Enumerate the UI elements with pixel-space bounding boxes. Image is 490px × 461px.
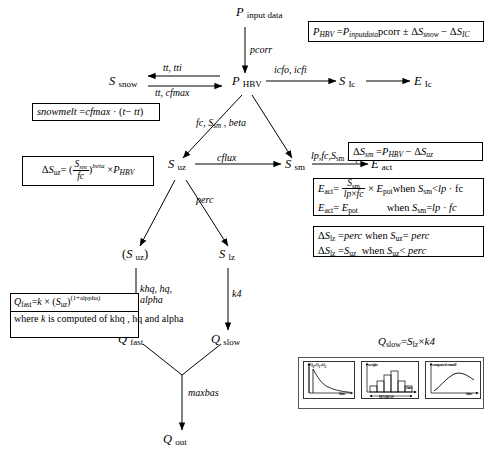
equation-note-q-fast: where k is computed of khq , hq and alph… (11, 312, 138, 326)
mini-chart-weight: weight time MAXBAS (361, 361, 419, 399)
node-e-ic: E Ic (414, 74, 432, 89)
mini-chart-weight-maxbas-label: MAXBAS (379, 395, 394, 399)
mini-chart-runoff: computed runoff time (425, 361, 481, 399)
node-s-uz-lower: (S uz) (122, 247, 148, 262)
mini-chart-runoff-xlabel: time (466, 392, 472, 396)
edge-label-cflux: cflux (217, 152, 236, 163)
node-s-sm: S sm (285, 157, 305, 172)
edge-label-pcorr: pcorr (250, 44, 272, 55)
edge-label-tt-cfmax: tt, cfmax (155, 87, 189, 98)
node-s-ic: S Ic (339, 74, 355, 89)
node-p-hbv: P HBV (232, 74, 262, 89)
edge-label-icfo-icfi: icfo, icfi (274, 64, 307, 75)
mini-chart-runoff-svg (426, 362, 482, 400)
node-s-lz: S lz (219, 247, 235, 262)
node-q-slow: Q slow (211, 332, 240, 347)
maxbas-illustration-panel: Q0+Q1+Q2 time weight time MAX (298, 357, 484, 409)
equation-row-delta-s-lz-1: ΔSlz =perc when Suz= perc (318, 228, 479, 243)
edge-label-maxbas: maxbas (188, 387, 219, 398)
equation-box-delta-s-lz: ΔSlz =perc when Suz= perc ΔSlz =Suz when… (313, 226, 484, 257)
equation-box-q-fast: Qfast=k × (Suz)(1+alppha) where k is com… (10, 293, 139, 338)
mini-chart-inflow-xlabel: time (339, 392, 345, 396)
node-s-snow: S snow (109, 74, 137, 89)
edge-label-khq-hq-alpha: khq, hq,alpha (140, 283, 172, 305)
equation-box-snowmelt: snowmelt =cfmax · (t− tt) (32, 103, 160, 121)
node-q-out: Q out (163, 432, 187, 447)
equation-row-e-act-1: Eact= Ssmlp×fc × Epotwhen Ssm<lp · fc (318, 180, 479, 199)
equation-box-e-act: Eact= Ssmlp×fc × Epotwhen Ssm<lp · fc Ea… (313, 178, 484, 216)
equation-row-e-act-2: Eact= Epot when Ssm=lp · fc (318, 199, 479, 216)
equation-box-p-hbv: PHBV =Pinputdatapcorr ± ΔSsnow − ΔSIC (308, 21, 484, 42)
equation-q-slow: Qslow=Slz×k4 (378, 335, 435, 347)
edge-label-tt-tti: tt, tti (163, 62, 182, 73)
mini-chart-weight-xlabel: time (406, 386, 412, 390)
node-p-input-data: P input data (236, 5, 283, 20)
mini-chart-weight-title: weight (368, 363, 378, 367)
edge-label-perc: perc (196, 194, 213, 205)
equation-box-delta-s-uz: ΔSuz= (Ssmfc)beta ×PHBV (22, 156, 154, 186)
diagram-canvas: P input data P HBV S snow S Ic E Ic S uz… (0, 0, 490, 461)
mini-chart-inflow-title: Q0+Q1+Q2 (310, 363, 326, 369)
edge-label-fc-ssm-beta: fc, Ssm , beta (196, 117, 246, 128)
equation-box-delta-s-sm: ΔSsm =PHBV − ΔSuz (348, 142, 483, 161)
mini-chart-runoff-title: computed runoff (432, 363, 456, 367)
mini-chart-inflow: Q0+Q1+Q2 time (303, 361, 355, 399)
equation-row-delta-s-lz-2: ΔSlz =Suz when Suz< perc (318, 243, 479, 258)
equation-row-q-fast: Qfast=k × (Suz)(1+alppha) (11, 294, 138, 312)
edge-label-k4: k4 (232, 288, 241, 299)
node-s-uz: S uz (168, 157, 186, 172)
